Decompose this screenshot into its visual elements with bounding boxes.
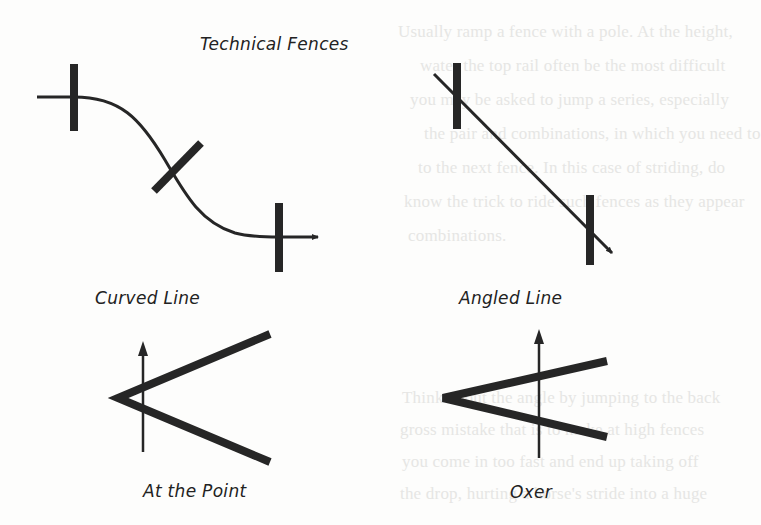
oxer-figure (443, 329, 607, 458)
angled-line-figure (434, 63, 612, 265)
arrow-head-icon (138, 341, 148, 356)
oxer-label: Oxer (510, 484, 552, 501)
fence-bar-2 (154, 143, 201, 191)
curved-line-label: Curved Line (95, 290, 200, 307)
v-fence (443, 361, 607, 437)
curved-line-figure (37, 64, 318, 272)
at-the-point-figure (118, 334, 270, 462)
angled-line-label: Angled Line (459, 290, 562, 307)
diagram-title: Technical Fences (200, 36, 349, 53)
arrow-head-icon (534, 329, 544, 344)
at-the-point-label: At the Point (143, 483, 246, 500)
